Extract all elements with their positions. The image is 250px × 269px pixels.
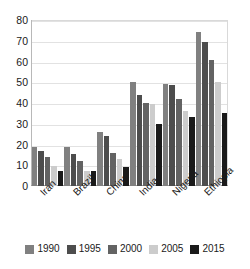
- y-axis-tick-20: 20: [2, 140, 28, 150]
- bar-india-2015: [156, 124, 162, 186]
- x-axis-category-labels: IranBrazilChinaIndiaNigeriaEthiopia: [31, 186, 228, 236]
- bar-group-china: [97, 20, 130, 186]
- bar-brazil-1995: [71, 154, 77, 186]
- y-axis-tick-0: 0: [2, 181, 28, 191]
- legend-item-1995[interactable]: 1995: [67, 244, 101, 254]
- y-axis-tick-80: 80: [2, 15, 28, 25]
- bar-iran-1990: [32, 147, 38, 186]
- bar-nigeria-1995: [169, 85, 175, 186]
- legend-item-1990[interactable]: 1990: [25, 244, 59, 254]
- legend-item-2000[interactable]: 2000: [108, 244, 142, 254]
- bar-chart: 01020304050607080 IranBrazilChinaIndiaNi…: [0, 0, 250, 269]
- y-axis-tick-30: 30: [2, 119, 28, 129]
- bar-group-nigeria: [162, 20, 195, 186]
- legend-swatch-icon-2015: [190, 245, 199, 254]
- y-axis-tick-50: 50: [2, 77, 28, 87]
- bar-brazil-1990: [64, 147, 70, 186]
- chart-legend: 19901995200020052015: [0, 244, 250, 254]
- y-axis-tick-labels: 01020304050607080: [0, 0, 28, 269]
- bar-ethiopia-2000: [209, 60, 215, 186]
- legend-label-1995: 1995: [79, 244, 101, 254]
- bar-nigeria-2000: [176, 99, 182, 186]
- legend-swatch-icon-2000: [108, 245, 117, 254]
- bar-nigeria-1990: [163, 84, 169, 186]
- bar-india-1995: [137, 95, 143, 186]
- legend-swatch-icon-1990: [25, 245, 34, 254]
- bar-series-layer: [31, 20, 228, 186]
- bar-group-brazil: [64, 20, 97, 186]
- y-axis-tick-10: 10: [2, 160, 28, 170]
- legend-label-2015: 2015: [202, 244, 224, 254]
- bar-india-2000: [143, 103, 149, 186]
- bar-india-1990: [130, 82, 136, 186]
- legend-label-2005: 2005: [161, 244, 183, 254]
- bar-group-india: [129, 20, 162, 186]
- y-axis-tick-40: 40: [2, 98, 28, 108]
- bar-ethiopia-1995: [202, 42, 208, 186]
- bar-group-iran: [31, 20, 64, 186]
- bar-ethiopia-1990: [196, 32, 202, 186]
- legend-item-2015[interactable]: 2015: [190, 244, 224, 254]
- bar-iran-1995: [38, 151, 44, 186]
- legend-swatch-icon-1995: [67, 245, 76, 254]
- bar-group-ethiopia: [195, 20, 228, 186]
- bar-china-1990: [97, 132, 103, 186]
- legend-item-2005[interactable]: 2005: [149, 244, 183, 254]
- y-axis-tick-60: 60: [2, 57, 28, 67]
- legend-label-2000: 2000: [120, 244, 142, 254]
- bar-china-1995: [104, 136, 110, 186]
- legend-swatch-icon-2005: [149, 245, 158, 254]
- legend-label-1990: 1990: [37, 244, 59, 254]
- bar-iran-2015: [58, 171, 64, 186]
- y-axis-tick-70: 70: [2, 36, 28, 46]
